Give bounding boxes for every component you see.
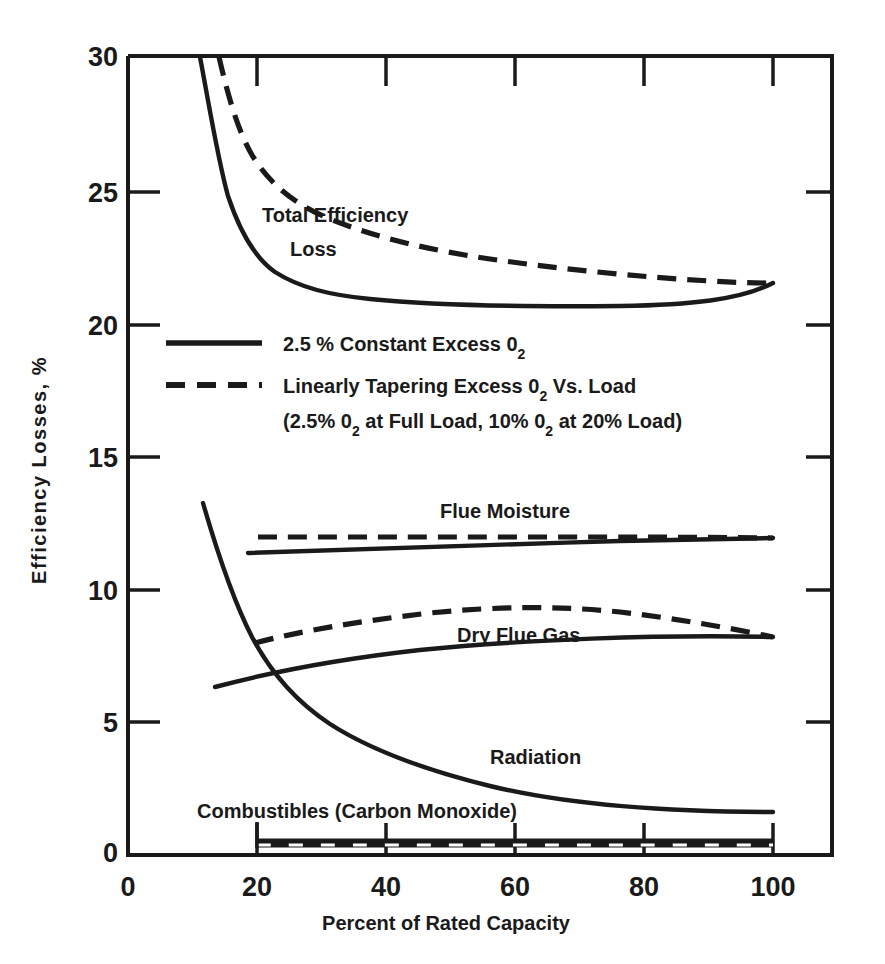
y-tick-label: 5 [103, 708, 118, 738]
curve-radiation-solid [203, 503, 773, 812]
efficiency-losses-chart: 30 25 20 15 10 5 0 0 20 40 60 80 100 Per… [0, 0, 885, 964]
y-tick-label: 20 [88, 311, 118, 341]
y-tick-label: 0 [103, 838, 118, 868]
y-axis-title: Efficiency Losses, % [28, 356, 50, 584]
legend-item-2: Linearly Tapering Excess 02 Vs. Load [283, 375, 636, 404]
label-total-efficiency-loss-line2: Loss [290, 238, 337, 260]
x-tick-label: 0 [120, 872, 135, 902]
curve-flue-moisture-solid [248, 538, 773, 553]
label-radiation: Radiation [490, 746, 581, 768]
curve-flue-moisture-dashed [258, 537, 773, 538]
y-tick-label: 10 [88, 576, 118, 606]
x-tick-label: 60 [500, 872, 530, 902]
x-tick-label: 40 [371, 872, 401, 902]
x-tick-label: 80 [629, 872, 659, 902]
y-axis-ticks-right [806, 192, 832, 722]
x-tick-label: 20 [242, 872, 272, 902]
y-tick-label: 15 [88, 443, 118, 473]
plot-frame [128, 56, 832, 855]
label-combustibles: Combustibles (Carbon Monoxide) [197, 800, 517, 822]
y-tick-label: 25 [88, 178, 118, 208]
label-total-efficiency-loss-line1: Total Efficiency [262, 204, 409, 226]
x-axis-ticks-top [257, 56, 773, 86]
y-axis-ticks [128, 192, 160, 722]
x-tick-labels: 0 20 40 60 80 100 [120, 872, 795, 902]
y-tick-label: 30 [88, 42, 118, 72]
x-tick-label: 100 [750, 872, 795, 902]
label-flue-moisture: Flue Moisture [440, 500, 570, 522]
legend: 2.5 % Constant Excess 02 Linearly Taperi… [166, 333, 682, 439]
chart-container: 30 25 20 15 10 5 0 0 20 40 60 80 100 Per… [0, 0, 885, 964]
curve-total-efficiency-loss-solid [200, 57, 773, 306]
legend-item-3: (2.5% 02 at Full Load, 10% 02 at 20% Loa… [283, 410, 682, 439]
y-tick-labels: 30 25 20 15 10 5 0 [88, 42, 118, 868]
label-dry-flue-gas: Dry Flue Gas [457, 624, 580, 646]
x-axis-title: Percent of Rated Capacity [322, 912, 571, 934]
legend-item-1: 2.5 % Constant Excess 02 [283, 333, 526, 362]
